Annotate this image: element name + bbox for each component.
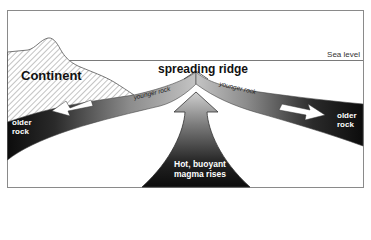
older-rock-left-line1: older: [12, 118, 32, 127]
magma-label: Hot, buoyant magma rises: [164, 159, 236, 179]
magma-label-line2: magma rises: [164, 169, 236, 179]
older-rock-left-label: older rock: [12, 118, 32, 136]
magma-label-line1: Hot, buoyant: [164, 159, 236, 169]
older-rock-left-line2: rock: [12, 127, 32, 136]
older-rock-right-line1: older: [337, 111, 357, 120]
continent-label: Continent: [21, 69, 82, 82]
older-rock-right-line2: rock: [337, 120, 357, 129]
older-rock-right-label: older rock: [337, 111, 357, 129]
sea-level-label: Sea level: [327, 51, 360, 59]
spreading-ridge-label: spreading ridge: [158, 63, 248, 75]
